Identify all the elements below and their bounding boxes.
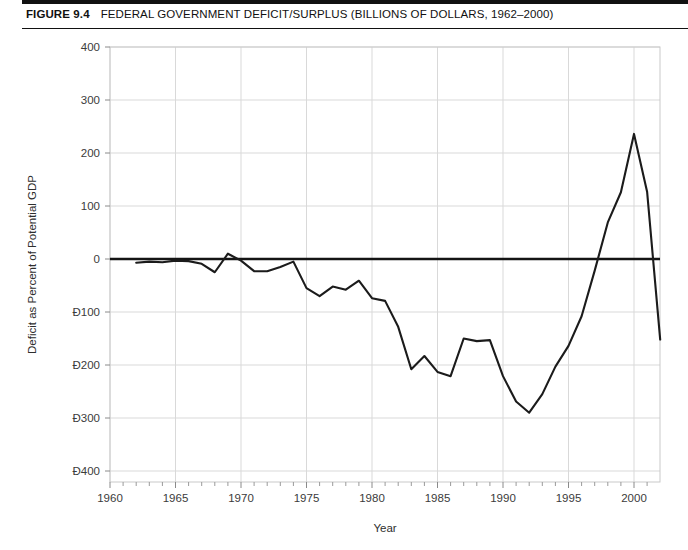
- ytick-label: 200: [81, 147, 100, 159]
- ytick-label: Ð100: [73, 306, 101, 318]
- xtick-label: 1995: [556, 492, 582, 504]
- x-axis-title: Year: [373, 522, 396, 534]
- figure-root: FIGURE 9.4FEDERAL GOVERNMENT DEFICIT/SUR…: [0, 0, 688, 550]
- xtick-label: 1985: [425, 492, 451, 504]
- ytick-label: 0: [94, 253, 100, 265]
- ytick-label: 100: [81, 200, 100, 212]
- axis-frame-layer: [110, 47, 660, 482]
- ytick-label: Ð200: [73, 359, 101, 371]
- ytick-label: 400: [81, 41, 100, 53]
- axis-titles: YearDeficit as Percent of Potential GDP: [26, 175, 397, 534]
- xtick-label: 2000: [621, 492, 647, 504]
- xtick-label: 1970: [228, 492, 254, 504]
- ytick-label: Ð400: [73, 465, 101, 477]
- ytick-label-layer: 4003002001000Ð100Ð200Ð300Ð400: [73, 41, 101, 477]
- axis-frame: [110, 47, 660, 482]
- xtick-label-layer: 196019651970197519801985199019952000: [97, 492, 647, 504]
- series-line-0: [136, 134, 660, 413]
- tick-layer: [105, 47, 647, 488]
- chart-plot-area: 4003002001000Ð100Ð200Ð300Ð400 1960196519…: [0, 0, 688, 550]
- grid-layer: [110, 47, 660, 482]
- xtick-label: 1990: [490, 492, 516, 504]
- deficit-surplus-line-chart: 4003002001000Ð100Ð200Ð300Ð400 1960196519…: [0, 0, 688, 550]
- xtick-label: 1975: [294, 492, 320, 504]
- xtick-label: 1965: [163, 492, 189, 504]
- y-axis-title: Deficit as Percent of Potential GDP: [26, 175, 38, 354]
- ytick-label: 300: [81, 94, 100, 106]
- series-layer: [136, 134, 660, 413]
- ytick-label: Ð300: [73, 412, 101, 424]
- xtick-label: 1980: [359, 492, 385, 504]
- xtick-label: 1960: [97, 492, 123, 504]
